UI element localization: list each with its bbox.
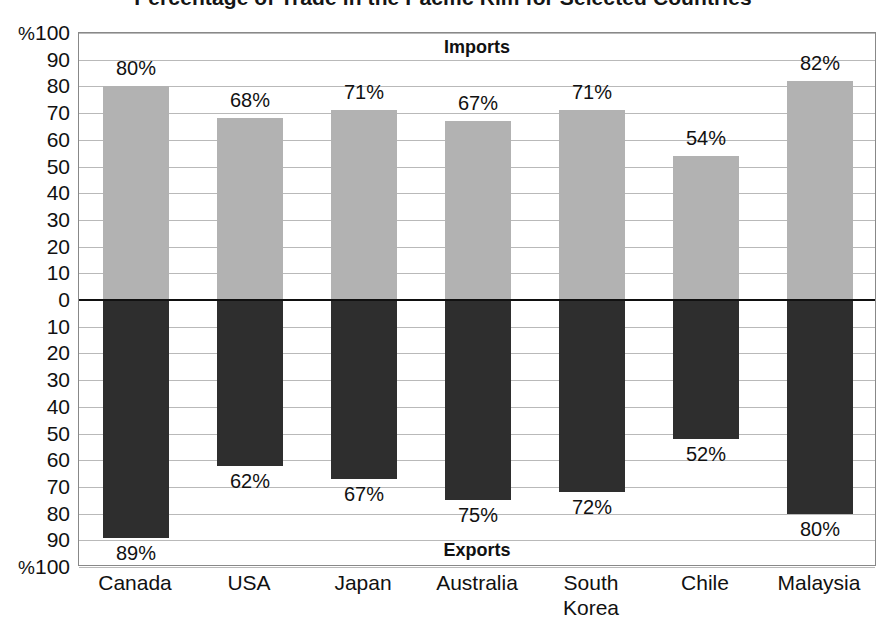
bar-import-0[interactable]: [103, 86, 169, 300]
y-tick-upper-90: 90: [47, 48, 70, 69]
y-tick-lower-20: 20: [47, 342, 70, 363]
y-tick-upper-100: %100: [18, 22, 70, 43]
band-label-exports: Exports: [79, 540, 875, 561]
bar-value-import-3: 67%: [419, 92, 537, 115]
x-axis-label-4: South Korea: [534, 570, 648, 620]
y-tick-lower-100: %100: [18, 556, 70, 577]
y-tick-lower-40: 40: [47, 395, 70, 416]
bar-export-0[interactable]: [103, 300, 169, 538]
y-tick-lower-50: 50: [47, 422, 70, 443]
zero-axis-line: [79, 299, 875, 301]
chart-title: Percentage of Trade in the Pacific Rim f…: [0, 0, 886, 10]
y-tick-lower-60: 60: [47, 449, 70, 470]
bar-value-import-4: 71%: [533, 81, 651, 104]
chart-container: Percentage of Trade in the Pacific Rim f…: [0, 0, 886, 632]
bar-import-2[interactable]: [331, 110, 397, 300]
y-tick-upper-80: 80: [47, 75, 70, 96]
bar-export-2[interactable]: [331, 300, 397, 479]
bar-value-export-3: 75%: [419, 504, 537, 527]
bar-export-3[interactable]: [445, 300, 511, 500]
bar-value-export-1: 62%: [191, 470, 309, 493]
x-axis-label-2: Japan: [306, 570, 420, 595]
x-axis-label-1: USA: [192, 570, 306, 595]
bar-export-1[interactable]: [217, 300, 283, 466]
y-tick-lower-30: 30: [47, 369, 70, 390]
y-tick-upper-40: 40: [47, 182, 70, 203]
gridline: [79, 567, 875, 568]
bar-value-import-1: 68%: [191, 89, 309, 112]
y-tick-lower-70: 70: [47, 475, 70, 496]
bar-import-1[interactable]: [217, 118, 283, 300]
bar-import-5[interactable]: [673, 156, 739, 300]
bar-value-import-5: 54%: [647, 127, 765, 150]
y-tick-lower-90: 90: [47, 529, 70, 550]
bar-value-import-0: 80%: [77, 57, 195, 80]
bar-value-export-2: 67%: [305, 483, 423, 506]
y-tick-upper-60: 60: [47, 128, 70, 149]
x-axis: CanadaUSAJapanAustraliaSouth KoreaChileM…: [78, 570, 876, 632]
bar-export-5[interactable]: [673, 300, 739, 439]
bar-value-export-4: 72%: [533, 496, 651, 519]
y-axis: %100908070605040302010010203040506070809…: [0, 32, 74, 566]
y-tick-upper-0: 0: [58, 289, 70, 310]
y-tick-lower-10: 10: [47, 315, 70, 336]
x-axis-label-5: Chile: [648, 570, 762, 595]
bar-value-export-5: 52%: [647, 443, 765, 466]
y-tick-upper-50: 50: [47, 155, 70, 176]
plot-area: Imports Exports 80%89%68%62%71%67%67%75%…: [78, 32, 876, 566]
bar-import-4[interactable]: [559, 110, 625, 300]
x-axis-label-3: Australia: [420, 570, 534, 595]
bar-import-3[interactable]: [445, 121, 511, 300]
y-tick-upper-10: 10: [47, 262, 70, 283]
y-tick-upper-30: 30: [47, 208, 70, 229]
x-axis-label-6: Malaysia: [762, 570, 876, 595]
band-label-imports: Imports: [79, 37, 875, 58]
y-tick-upper-20: 20: [47, 235, 70, 256]
bar-value-import-2: 71%: [305, 81, 423, 104]
bar-export-6[interactable]: [787, 300, 853, 514]
bar-value-export-6: 80%: [761, 518, 879, 541]
x-axis-label-0: Canada: [78, 570, 192, 595]
bar-import-6[interactable]: [787, 81, 853, 300]
y-tick-upper-70: 70: [47, 102, 70, 123]
y-tick-lower-80: 80: [47, 502, 70, 523]
bar-export-4[interactable]: [559, 300, 625, 492]
